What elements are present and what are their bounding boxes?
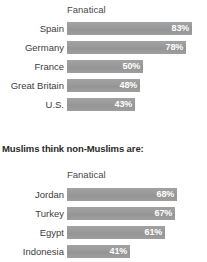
bottom-chart: Fanatical Jordan 68% Turkey 67% Egypt 61… xyxy=(0,0,207,262)
bottom-chart-series-header: Fanatical xyxy=(67,169,106,180)
row-label: Egypt xyxy=(2,226,64,239)
chart-row: Indonesia 41% xyxy=(0,245,207,258)
bar-track: 41% xyxy=(67,245,130,258)
bar: 68% xyxy=(67,188,177,201)
chart-row: Jordan 68% xyxy=(0,188,207,201)
chart-row: Turkey 67% xyxy=(0,207,207,220)
bar-value-label: 68% xyxy=(157,188,174,201)
row-label: Indonesia xyxy=(2,245,64,258)
bar: 67% xyxy=(67,207,175,220)
bar-value-label: 67% xyxy=(155,207,172,220)
row-label: Turkey xyxy=(2,207,64,220)
bar-track: 68% xyxy=(67,188,177,201)
row-label: Jordan xyxy=(2,188,64,201)
bar-value-label: 41% xyxy=(110,245,127,258)
bar: 41% xyxy=(67,245,130,258)
bar-track: 67% xyxy=(67,207,175,220)
bar: 61% xyxy=(67,226,165,239)
chart-row: Egypt 61% xyxy=(0,226,207,239)
bar-value-label: 61% xyxy=(145,226,162,239)
bar-track: 61% xyxy=(67,226,165,239)
